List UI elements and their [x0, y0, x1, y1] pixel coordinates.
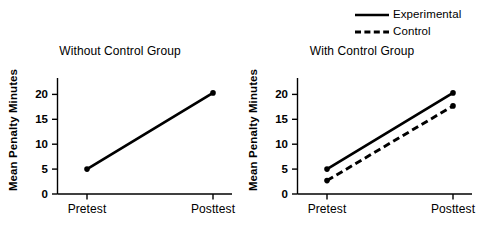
data-point-pretest [84, 166, 90, 172]
y-tick-10: 10 [35, 138, 48, 150]
x-axis-ticklabels-left: Pretest Posttest [68, 202, 236, 216]
legend-item-control: Control [355, 23, 481, 40]
x-axis-ticklabels-right: Pretest Posttest [308, 202, 476, 216]
solid-line-icon [355, 10, 389, 20]
x-tick-posttest: Posttest [431, 202, 476, 216]
data-point-posttest [210, 90, 216, 96]
series-line-experimental [87, 93, 213, 169]
y-tick-10: 10 [275, 138, 288, 150]
series-control-right [324, 103, 456, 183]
series-line-control [327, 106, 453, 181]
legend-label-control: Control [393, 25, 431, 38]
y-tick-15: 15 [35, 113, 48, 125]
data-point-posttest [450, 103, 456, 109]
legend-label-experimental: Experimental [393, 8, 461, 21]
data-point-posttest [450, 90, 456, 96]
series-line-experimental [327, 93, 453, 169]
dashed-line-icon [355, 27, 389, 37]
y-tick-0: 0 [42, 188, 48, 200]
x-axis-ticks-left [87, 194, 213, 200]
y-tick-20: 20 [35, 88, 48, 100]
x-tick-pretest: Pretest [68, 202, 107, 216]
series-experimental-right [324, 90, 456, 172]
y-tick-5: 5 [42, 163, 49, 175]
series-experimental-left [84, 90, 216, 172]
plot-area-without-control: 0 5 10 15 20 Pretest Posttest [0, 44, 240, 238]
y-tick-20: 20 [275, 88, 288, 100]
legend-item-experimental: Experimental [355, 6, 481, 23]
figure: Experimental Control Without Control Gro… [0, 0, 484, 238]
chart-panel-without-control: Without Control Group Mean Penalty Minut… [0, 44, 240, 238]
chart-legend: Experimental Control [355, 6, 481, 40]
y-axis-ticks-left [52, 94, 58, 194]
y-tick-5: 5 [282, 163, 289, 175]
x-tick-posttest: Posttest [191, 202, 236, 216]
y-axis-ticks-right [292, 94, 298, 194]
data-point-pretest [324, 178, 330, 184]
plot-area-with-control: 0 5 10 15 20 Pretest Posttest [240, 44, 484, 238]
chart-panel-with-control: With Control Group Mean Penalty Minutes … [240, 44, 484, 238]
x-tick-pretest: Pretest [308, 202, 347, 216]
data-point-pretest [324, 166, 330, 172]
y-tick-0: 0 [282, 188, 288, 200]
y-axis-ticklabels-left: 0 5 10 15 20 [35, 88, 48, 200]
x-axis-ticks-right [327, 194, 453, 200]
y-tick-15: 15 [275, 113, 288, 125]
y-axis-ticklabels-right: 0 5 10 15 20 [275, 88, 288, 200]
